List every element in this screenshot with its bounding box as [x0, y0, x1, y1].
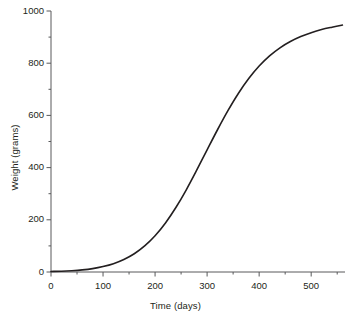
x-tick-label: 300: [187, 280, 227, 291]
x-tick-label: 400: [239, 280, 279, 291]
growth-curve-line: [51, 25, 342, 271]
y-tick-label: 1000: [4, 5, 44, 16]
y-tick-label: 0: [4, 266, 44, 277]
x-axis-ticks: [51, 272, 337, 277]
x-tick-label: 200: [135, 280, 175, 291]
x-tick-label: 0: [31, 280, 71, 291]
x-axis-title: Time (days): [0, 300, 351, 311]
plot-area: [0, 0, 351, 320]
x-tick-label: 100: [83, 280, 123, 291]
axes: [51, 11, 345, 272]
x-tick-label: 500: [291, 280, 331, 291]
y-axis-ticks: [47, 11, 52, 272]
chart-figure: 02004006008001000 0100200300400500 Weigh…: [0, 0, 351, 320]
y-axis-title: Weight (grams): [9, 88, 20, 228]
y-tick-label: 800: [4, 57, 44, 68]
